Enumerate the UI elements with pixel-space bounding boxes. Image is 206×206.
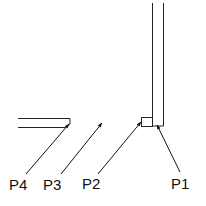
label-p4: P4 <box>9 176 27 193</box>
arrow-p2 <box>98 122 141 174</box>
arrow-p3 <box>61 123 102 174</box>
corner-points-diagram: P4 P3 P2 P1 <box>0 0 206 206</box>
corner-block <box>142 118 153 127</box>
horizontal-member <box>18 119 70 128</box>
arrow-p4 <box>26 124 69 174</box>
label-p1: P1 <box>171 175 189 192</box>
label-p2: P2 <box>82 175 100 192</box>
arrow-p1 <box>157 125 180 172</box>
label-p3: P3 <box>43 176 61 193</box>
vertical-member <box>153 3 164 126</box>
